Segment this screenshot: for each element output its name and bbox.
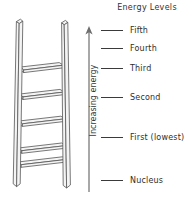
level-tick-icon <box>101 48 123 49</box>
energy-level-fourth: Fourth <box>101 42 157 54</box>
level-tick-icon <box>101 137 123 138</box>
axis-label: Increasing energy <box>89 42 98 160</box>
energy-level-first: First (lowest) <box>101 131 184 143</box>
energy-level-label: Fourth <box>130 44 157 53</box>
level-tick-icon <box>101 68 123 69</box>
level-tick-icon <box>101 180 123 181</box>
energy-level-third: Third <box>101 62 151 74</box>
energy-level-label: First (lowest) <box>130 133 184 142</box>
ladder-rail-right <box>62 20 71 188</box>
energy-level-fifth: Fifth <box>101 24 148 36</box>
level-tick-icon <box>101 30 123 31</box>
ladder-rung-group <box>18 63 67 168</box>
ladder-svg <box>8 14 76 192</box>
energy-level-label: Second <box>130 93 161 102</box>
energy-level-label: Fifth <box>130 26 148 35</box>
energy-levels-diagram: Energy Levels <box>0 0 196 197</box>
increasing-energy-axis: Increasing energy <box>78 22 100 194</box>
energy-level-nucleus: Nucleus <box>101 174 163 186</box>
energy-level-label: Third <box>130 64 151 73</box>
page-title: Energy Levels <box>98 3 196 12</box>
level-tick-icon <box>101 97 123 98</box>
ladder-illustration <box>8 14 76 192</box>
energy-level-label: Nucleus <box>130 176 163 185</box>
energy-level-second: Second <box>101 91 161 103</box>
